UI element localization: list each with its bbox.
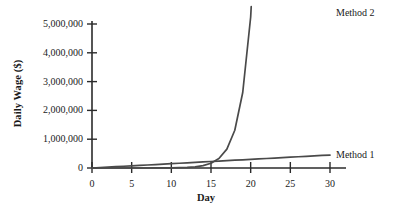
series-label-method-1: Method 1 bbox=[336, 150, 375, 160]
data-series-group bbox=[92, 7, 330, 168]
x-tick-label: 15 bbox=[196, 179, 226, 189]
x-tick-label: 30 bbox=[315, 179, 345, 189]
x-tick-label: 0 bbox=[77, 179, 107, 189]
y-tick-label: 3,000,000 bbox=[43, 77, 83, 87]
x-tick-label: 5 bbox=[117, 179, 147, 189]
y-tick-label: 5,000,000 bbox=[43, 19, 83, 29]
x-tick-label: 20 bbox=[236, 179, 266, 189]
axes-group bbox=[92, 21, 346, 168]
series-label-method-2: Method 2 bbox=[336, 8, 375, 18]
y-axis-title: Daily Wage ($) bbox=[12, 39, 23, 149]
chart-container: Daily Wage ($) Day 01,000,0002,000,0003,… bbox=[0, 0, 412, 213]
y-tick-label: 0 bbox=[78, 163, 83, 173]
y-tick-label: 2,000,000 bbox=[43, 105, 83, 115]
x-tick-label: 10 bbox=[156, 179, 186, 189]
y-tick-label: 1,000,000 bbox=[43, 134, 83, 144]
series-line-method-2 bbox=[92, 7, 251, 168]
x-tick-label: 25 bbox=[275, 179, 305, 189]
x-axis-title: Day bbox=[0, 192, 412, 203]
y-tick-label: 4,000,000 bbox=[43, 48, 83, 58]
